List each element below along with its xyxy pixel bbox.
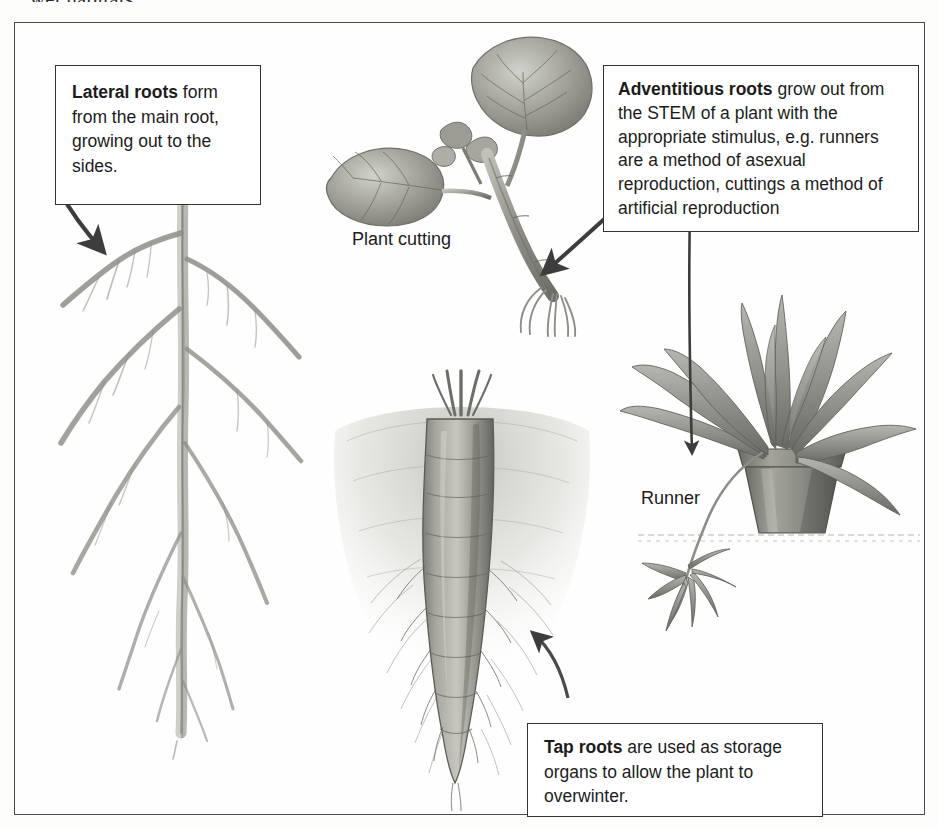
figure-page: wet habitats.	[0, 0, 939, 827]
callout-lateral-lead: Lateral roots	[72, 82, 178, 102]
runner-spider-plant-illustration	[616, 291, 916, 621]
label-plant-cutting: Plant cutting	[352, 229, 451, 250]
callout-lateral-text: Lateral roots form from the main root, g…	[72, 80, 247, 178]
callout-adventitious-text: Adventitious roots grow out from the STE…	[618, 78, 908, 221]
figure-frame: Lateral roots form from the main root, g…	[14, 22, 925, 815]
callout-tap-lead: Tap roots	[544, 737, 622, 757]
label-runner: Runner	[641, 488, 700, 509]
page-runover-text: wet habitats.	[30, 0, 139, 2]
callout-tap-roots: Tap roots are used as storage organs to …	[527, 723, 823, 817]
callout-adventitious-roots: Adventitious roots grow out from the STE…	[603, 65, 919, 232]
leaf-upper	[472, 37, 592, 136]
flower-pot	[738, 449, 846, 533]
leaf-left	[327, 148, 444, 226]
callout-tap-text: Tap roots are used as storage organs to …	[544, 735, 812, 809]
plant-cutting-illustration	[291, 26, 591, 326]
runner-plantlet	[642, 549, 736, 631]
lateral-root-illustration	[59, 181, 309, 761]
callout-adventitious-lead: Adventitious roots	[618, 79, 773, 99]
callout-lateral-roots: Lateral roots form from the main root, g…	[55, 65, 261, 205]
surface-line	[638, 535, 920, 541]
callout-adventitious-body: grow out from the STEM of a plant with t…	[618, 79, 884, 218]
